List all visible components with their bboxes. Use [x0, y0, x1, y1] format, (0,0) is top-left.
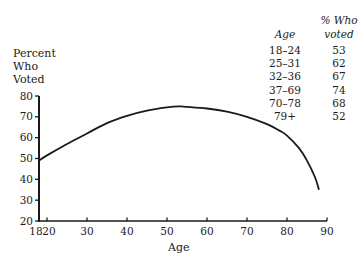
y-tick-label: 30	[20, 194, 33, 206]
y-tick-label: 40	[20, 173, 33, 185]
x-tick-label: 20	[42, 225, 55, 237]
x-tick-label: 70	[240, 225, 253, 237]
x-tick-label: 30	[80, 225, 93, 237]
x-tick-label: 40	[120, 225, 133, 237]
x-tick-label: 18	[29, 225, 42, 237]
x-tick-label: 60	[200, 225, 213, 237]
x-tick-label: 50	[160, 225, 173, 237]
x-tick-label: 90	[320, 225, 333, 237]
y-tick-label: 80	[20, 90, 33, 102]
turnout-curve	[39, 106, 319, 189]
y-tick-label: 70	[20, 110, 33, 122]
x-tick-label: 80	[280, 225, 293, 237]
y-tick-label: 60	[20, 131, 33, 143]
x-axis-title: Age	[168, 241, 190, 254]
y-tick-label: 50	[20, 152, 33, 164]
